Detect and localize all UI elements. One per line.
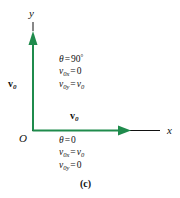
horizontal-velocity-arrowhead: [118, 126, 131, 136]
horizontal-velocity-vector-label: v0: [70, 111, 79, 123]
horizontal-case-vox-equation: v0x=v0: [59, 147, 84, 158]
figure-caption: (c): [80, 178, 91, 189]
vertical-case-equation-block: θ=90° v0x=0 v0y=v0: [59, 53, 84, 92]
theta-symbol-vertical: θ: [59, 54, 64, 64]
axes-and-vectors-svg: [0, 0, 180, 198]
vertical-velocity-v-subscript: 0: [13, 83, 17, 91]
y-axis-label: y: [29, 8, 34, 19]
horizontal-case-theta-equation: θ=0: [59, 135, 84, 145]
equals-sign-vertical-vox: =: [69, 66, 76, 76]
vertical-case-vox-equation: v0x=0: [59, 66, 84, 77]
horizontal-case-voy-equation: v0y=0: [59, 160, 84, 171]
projectile-launch-angle-figure: y x O v0 v0 θ=90° v0x=0 v0y=v0 θ=0 v0x=v…: [0, 0, 180, 198]
theta-symbol-horizontal: θ: [59, 135, 64, 145]
vertical-case-voy-equation: v0y=v0: [59, 79, 84, 90]
voy-value-subscript-vertical: 0: [81, 83, 84, 90]
horizontal-velocity-v-subscript: 0: [75, 115, 79, 123]
theta-value-vertical: 90: [71, 54, 81, 64]
vertical-case-theta-equation: θ=90°: [59, 53, 84, 64]
equals-sign-horizontal-theta: =: [64, 135, 71, 145]
equals-sign-vertical-theta: =: [64, 54, 71, 64]
theta-value-horizontal: 0: [71, 135, 76, 145]
degree-symbol-vertical: °: [81, 53, 84, 61]
equals-sign-horizontal-vox: =: [69, 147, 76, 157]
x-axis-label: x: [167, 125, 172, 136]
horizontal-case-equation-block: θ=0 v0x=v0 v0y=0: [59, 135, 84, 173]
vertical-velocity-vector-label: v0: [8, 79, 17, 91]
vox-value-vertical: 0: [77, 66, 82, 76]
vertical-velocity-arrowhead: [29, 31, 38, 45]
voy-value-horizontal: 0: [77, 160, 82, 170]
equals-sign-horizontal-voy: =: [69, 160, 76, 170]
vox-value-subscript-horizontal: 0: [81, 151, 84, 158]
equals-sign-vertical-voy: =: [69, 79, 76, 89]
origin-label: O: [19, 133, 27, 144]
